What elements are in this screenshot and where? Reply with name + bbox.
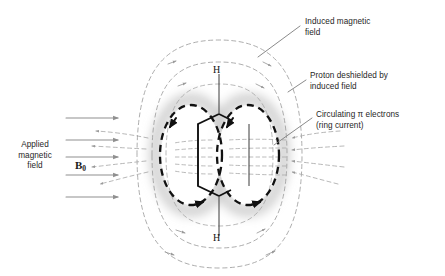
applied-field-arrows <box>66 118 118 197</box>
annotation-applied-field: Applied magnetic field <box>8 140 62 172</box>
b0-field-symbol: B0 <box>75 159 86 173</box>
annotation-deshielded-proton: Proton deshielded by induced field <box>310 71 388 92</box>
annotation-induced-field-line2: field <box>305 28 320 37</box>
annotation-ring-current-line2: (ring current) <box>316 121 364 130</box>
annotation-deshielded-proton-line1: Proton deshielded by <box>310 71 388 80</box>
proton-label-top: H <box>213 64 220 75</box>
annotation-applied-field-line3: field <box>27 161 42 170</box>
annotation-applied-field-line2: magnetic <box>18 151 52 160</box>
annotation-applied-field-line1: Applied <box>21 140 49 149</box>
annotation-induced-field-line1: Induced magnetic <box>305 17 370 26</box>
annotation-induced-field: Induced magnetic field <box>305 17 370 38</box>
proton-label-bottom: H <box>213 232 220 243</box>
diagram-canvas <box>0 0 445 276</box>
annotation-deshielded-proton-line2: induced field <box>310 82 357 91</box>
leader-deshielded-proton <box>288 80 306 92</box>
b0-symbol-subscript: 0 <box>82 164 86 173</box>
leader-induced-field <box>258 26 300 57</box>
annotation-ring-current: Circulating π electrons (ring current) <box>316 110 399 131</box>
annotation-ring-current-line1: Circulating π electrons <box>316 110 399 119</box>
ring-current-figure: Induced magnetic field Proton deshielded… <box>0 0 445 276</box>
